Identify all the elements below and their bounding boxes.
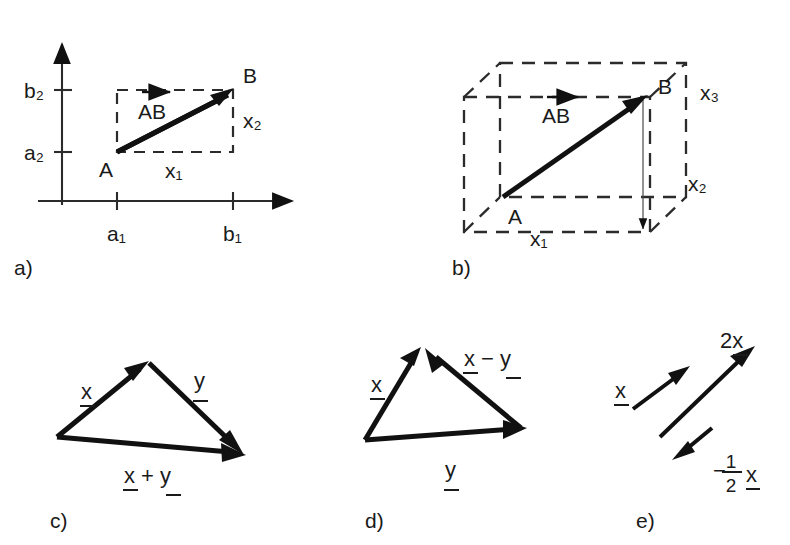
vector-figure-canvas: b₂ a₂ a₁ b₁ A B AB x₁ x₂ a) — [0, 0, 790, 545]
vector-x-line-c — [57, 369, 140, 437]
neg-sign-e: − — [713, 458, 726, 483]
panel-e: x 2x − 1 2 x e) — [614, 328, 760, 532]
panel-b: A B AB x₁ x₂ x₃ b) — [452, 63, 719, 279]
vector-y-line-d — [365, 429, 512, 440]
panel-a: b₂ a₂ a₁ b₁ A B AB x₁ x₂ a) — [14, 44, 292, 279]
panel-label-c: c) — [50, 509, 68, 532]
panel-c: x y x + y c) — [50, 361, 246, 532]
component-label-x2-panel-a: x₂ — [243, 109, 262, 132]
fraction-variable-e: x — [746, 462, 757, 487]
vector-label-x-text-e: x — [615, 378, 626, 403]
vector-two-x-line-e — [660, 357, 743, 437]
x-tick-label-a1: a₁ — [107, 222, 126, 245]
box-edge-top-left-b — [464, 63, 500, 97]
y-tick-label-a2: a₂ — [24, 141, 44, 164]
panel-label-a: a) — [14, 256, 33, 279]
vector-label-y-text-d: y — [445, 457, 456, 482]
component-label-x1-panel-b: x₁ — [530, 227, 548, 250]
vector-label-ab-text-b: AB — [542, 104, 570, 127]
y-tick-label-b2-base: b₂ — [24, 79, 44, 102]
vector-label-sum-text-c: x + y — [124, 463, 171, 488]
vector-label-y-panel-d: y — [444, 457, 459, 490]
panel-label-d: d) — [365, 509, 384, 532]
point-label-b-panel-b: B — [658, 75, 672, 98]
component-label-x3-panel-b: x₃ — [700, 81, 719, 104]
y-tick-label-b2: b₂ — [24, 79, 44, 102]
x-tick-label-b1: b₁ — [223, 222, 242, 245]
vector-label-x-text-d: x — [371, 372, 382, 397]
vector-y-line-c — [149, 363, 232, 443]
point-label-a-panel-b: A — [508, 205, 522, 228]
panel-d: x y x − y d) — [365, 346, 527, 532]
figure-root: b₂ a₂ a₁ b₁ A B AB x₁ x₂ a) — [0, 0, 790, 545]
fraction-denominator-e: 2 — [726, 475, 737, 496]
y-tick-label-a2-base: a₂ — [24, 141, 44, 164]
panel-label-b: b) — [452, 256, 471, 279]
point-label-a-panel-a: A — [99, 158, 113, 181]
component-label-x1-panel-a: x₁ — [165, 159, 183, 182]
vector-label-diff-text-d: x − y — [464, 346, 511, 371]
vector-label-y-panel-c: y — [193, 368, 208, 401]
vector-sum-line-c — [57, 437, 230, 452]
vector-label-diff-panel-d: x − y — [463, 346, 521, 378]
vector-label-x-text-c: x — [81, 379, 92, 404]
vector-label-ab-panel-a: AB — [138, 92, 170, 123]
vector-label-sum-panel-c: x + y — [123, 463, 181, 495]
fraction-numerator-e: 1 — [726, 451, 737, 472]
vector-x-arrowhead-d — [400, 347, 421, 366]
box-edge-bottom-left-b — [464, 197, 500, 232]
vector-label-x-panel-e: x — [614, 378, 629, 405]
vector-label-neg-half-x-panel-e: − 1 2 x — [713, 451, 760, 496]
vector-label-y-text-c: y — [194, 368, 205, 393]
vector-label-ab-text-a: AB — [138, 100, 166, 123]
vector-ab-line-a — [117, 98, 222, 152]
vector-label-x-panel-c: x — [80, 379, 95, 406]
panel-label-e: e) — [636, 509, 655, 532]
vector-label-x-panel-d: x — [370, 372, 385, 399]
vector-label-two-x-text-e: 2x — [720, 328, 743, 353]
point-label-b-panel-a: B — [243, 64, 257, 87]
component-label-x2-panel-b: x₂ — [688, 172, 707, 195]
vector-label-ab-panel-b: AB — [542, 97, 578, 127]
box-edge-bottom-right-b — [650, 197, 686, 232]
